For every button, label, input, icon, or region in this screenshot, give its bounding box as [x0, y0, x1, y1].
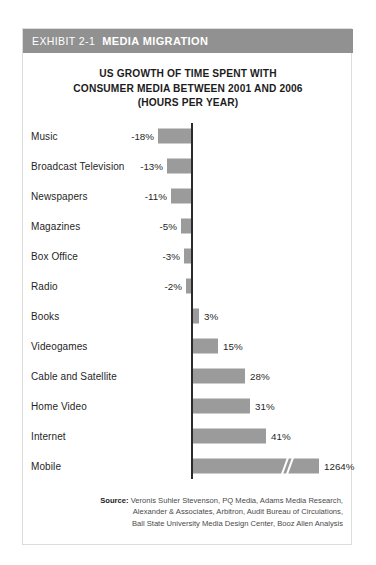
chart-title: US GROWTH OF TIME SPENT WITH CONSUMER ME…: [35, 67, 341, 111]
bar: [167, 159, 191, 174]
bar-row: Magazines-5%: [23, 211, 353, 241]
source-text-1: Veronis Suhler Stevenson, PQ Media, Adam…: [131, 496, 343, 505]
value-label: 31%: [255, 401, 275, 412]
category-label: Broadcast Television: [31, 161, 125, 172]
exhibit-header: EXHIBIT 2-1 MEDIA MIGRATION: [23, 29, 353, 53]
value-label: -3%: [163, 251, 180, 262]
exhibit-frame: EXHIBIT 2-1 MEDIA MIGRATION US GROWTH OF…: [22, 28, 352, 545]
source-line-1: Source: Veronis Suhler Stevenson, PQ Med…: [47, 495, 343, 506]
source-line-2: Alexander & Associates, Arbitron, Audit …: [47, 506, 343, 517]
value-label: 15%: [223, 341, 243, 352]
bar: [186, 279, 191, 294]
bar-row: Mobile1264%: [23, 451, 353, 481]
bar-row: Home Video31%: [23, 391, 353, 421]
value-label: -5%: [160, 221, 177, 232]
category-label: Mobile: [31, 461, 61, 472]
bar-chart-plot: Music-18%Broadcast Television-13%Newspap…: [23, 121, 353, 486]
bar-row: Box Office-3%: [23, 241, 353, 271]
value-label: -18%: [131, 131, 154, 142]
category-label: Cable and Satellite: [31, 371, 117, 382]
source-label: Source:: [100, 496, 128, 505]
bar-row: Radio-2%: [23, 271, 353, 301]
chart-title-line-3: (HOURS PER YEAR): [35, 96, 341, 111]
bar-row: Videogames15%: [23, 331, 353, 361]
source-note: Source: Veronis Suhler Stevenson, PQ Med…: [47, 495, 343, 529]
bar-row: Broadcast Television-13%: [23, 151, 353, 181]
bar: [184, 249, 191, 264]
bar: [193, 309, 199, 324]
category-label: Music: [31, 131, 58, 142]
bar: [193, 399, 250, 414]
bar-row: Internet41%: [23, 421, 353, 451]
bar: [193, 429, 266, 444]
bar: [193, 459, 319, 474]
category-label: Videogames: [31, 341, 87, 352]
value-label: 1264%: [324, 461, 355, 472]
value-label: -2%: [165, 281, 182, 292]
bar-row: Cable and Satellite28%: [23, 361, 353, 391]
value-label: 28%: [250, 371, 270, 382]
value-label: -13%: [140, 161, 163, 172]
category-label: Box Office: [31, 251, 78, 262]
source-line-3: Ball State University Media Design Cente…: [47, 518, 343, 529]
value-label: 3%: [204, 311, 218, 322]
exhibit-number: EXHIBIT 2-1: [32, 35, 95, 47]
chart-title-line-1: US GROWTH OF TIME SPENT WITH: [35, 67, 341, 82]
value-label: -11%: [145, 191, 167, 202]
bar-row: Books3%: [23, 301, 353, 331]
category-label: Newspapers: [31, 191, 88, 202]
bar-row: Newspapers-11%: [23, 181, 353, 211]
category-label: Home Video: [31, 401, 87, 412]
bar-row: Music-18%: [23, 121, 353, 151]
category-label: Magazines: [31, 221, 80, 232]
bar: [181, 219, 191, 234]
category-label: Books: [31, 311, 59, 322]
bar: [193, 339, 218, 354]
bar: [171, 189, 191, 204]
exhibit-title: MEDIA MIGRATION: [102, 35, 208, 47]
bar: [158, 129, 191, 144]
bar: [193, 369, 245, 384]
category-label: Internet: [31, 431, 66, 442]
chart-title-line-2: CONSUMER MEDIA BETWEEN 2001 AND 2006: [35, 82, 341, 97]
category-label: Radio: [31, 281, 58, 292]
value-label: 41%: [271, 431, 291, 442]
